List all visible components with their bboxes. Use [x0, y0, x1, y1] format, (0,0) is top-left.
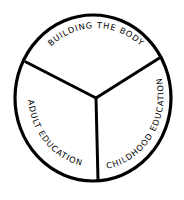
segment-label-left-text: ADULT EDUCATION	[26, 99, 84, 168]
segment-label-right: CHILDHOOD EDUCATION	[105, 77, 165, 171]
segment-label-left: ADULT EDUCATION	[26, 99, 84, 168]
three-part-circle-diagram: BUILDING THE BODY ADULT EDUCATION CHILDH…	[0, 0, 184, 200]
divider-right	[96, 57, 161, 98]
divider-bottom	[96, 98, 98, 180]
segment-label-right-text: CHILDHOOD EDUCATION	[105, 77, 165, 171]
divider-left	[26, 62, 96, 98]
